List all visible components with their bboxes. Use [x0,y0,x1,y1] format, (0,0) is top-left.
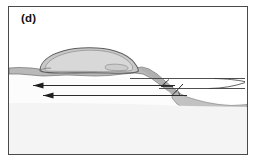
figure-root: (d) [0,0,257,162]
cross-section-drawing [9,7,247,154]
figure-frame: (d) [8,6,248,155]
lower-reference-line-taper [209,83,245,89]
upper-reference-line-taper [214,79,245,82]
panel-label: (d) [21,13,36,25]
substrate-lower-tone [9,103,247,154]
slump-internal-lens [105,64,128,70]
